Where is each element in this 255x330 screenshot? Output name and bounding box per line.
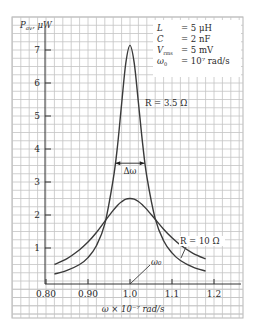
parameter-name: L (156, 23, 163, 33)
y-axis-title: Pav, μW (19, 20, 53, 31)
x-tick-label: 0.80 (36, 289, 56, 299)
label-r-10-ohm: R = 10 Ω (180, 236, 220, 246)
label-r-3-5-ohm: R = 3.5 Ω (145, 98, 187, 108)
x-axis-title: ω × 10⁻⁷ rad/s (102, 304, 165, 314)
y-tick-label: 7 (34, 45, 40, 55)
y-tick-label: 6 (34, 78, 40, 88)
x-tick-label: 1.0 (123, 289, 138, 299)
y-tick-label: 4 (34, 144, 40, 154)
parameter-value: = 2 nF (181, 34, 210, 44)
parameter-value: = 5 μH (181, 23, 212, 33)
x-tick-label: 1.1 (165, 289, 179, 299)
x-tick-label: 0.90 (78, 289, 98, 299)
y-tick-label: 2 (34, 210, 40, 220)
y-tick-label: 5 (34, 111, 40, 121)
parameter-value: = 5 mV (181, 45, 214, 55)
bandwidth-label: Δω (123, 166, 136, 176)
y-tick-label: 1 (34, 243, 40, 253)
y-tick-label: 3 (34, 177, 40, 187)
x-tick-label: 1.2 (207, 289, 221, 299)
omega0-label: ω₀ (151, 257, 162, 267)
parameter-name: C (157, 34, 164, 44)
resonance-chart: 12345670.800.901.01.11.2 Pav, μWω × 10⁻⁷… (0, 0, 255, 330)
parameter-value: = 10⁷ rad/s (181, 56, 230, 66)
